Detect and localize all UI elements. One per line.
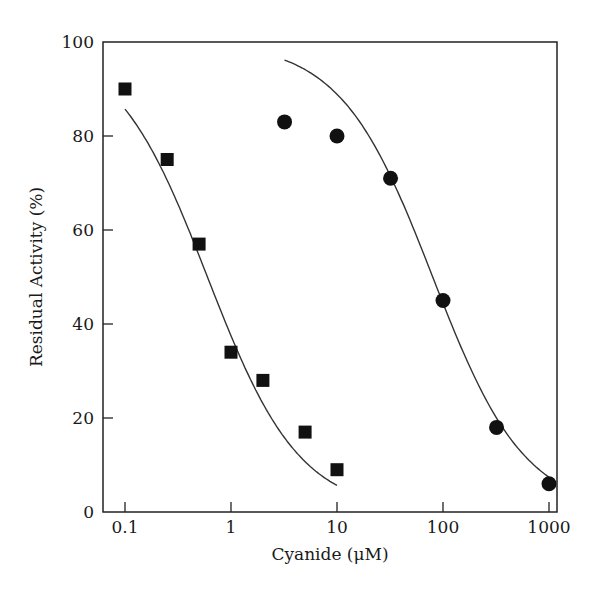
plot-frame (103, 42, 557, 512)
y-axis-ticks: 020406080100 (62, 32, 113, 522)
data-point-circle (330, 129, 345, 144)
x-tick-label: 10 (326, 517, 348, 537)
y-tick-label: 20 (72, 408, 94, 428)
data-point-square (225, 346, 238, 359)
y-tick-label: 40 (72, 314, 94, 334)
data-point-square (331, 463, 344, 476)
data-point-square (256, 374, 269, 387)
data-point-square (193, 238, 206, 251)
data-point-circle (383, 171, 398, 186)
x-tick-label: 1 (226, 517, 237, 537)
x-tick-label: 1000 (527, 517, 570, 537)
y-tick-label: 0 (83, 502, 94, 522)
data-point-square (161, 153, 174, 166)
fit-curves (125, 60, 549, 485)
data-point-circle (277, 114, 292, 129)
data-point-square (299, 426, 312, 439)
x-tick-label: 0.1 (111, 517, 138, 537)
x-axis-label: Cyanide (μM) (271, 544, 388, 564)
data-points (119, 83, 557, 492)
data-point-circle (489, 420, 504, 435)
data-point-circle (542, 476, 557, 491)
y-tick-label: 80 (72, 126, 94, 146)
x-axis-ticks: 0.11101001000 (111, 502, 570, 537)
y-tick-label: 100 (62, 32, 94, 52)
x-tick-label: 100 (427, 517, 459, 537)
y-tick-label: 60 (72, 220, 94, 240)
fit-curve-circles (285, 60, 550, 477)
chart: 020406080100 0.11101001000 Cyanide (μM) … (0, 0, 593, 596)
data-point-circle (436, 293, 451, 308)
data-point-square (119, 83, 132, 96)
y-axis-label: Residual Activity (%) (26, 187, 46, 367)
